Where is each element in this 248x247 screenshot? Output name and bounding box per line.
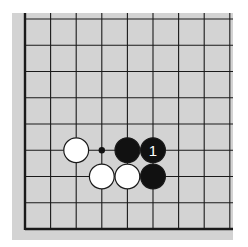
white-stone-icon [115,164,140,189]
point-marker-dot-icon [99,147,105,153]
black-stone [141,164,166,189]
white-stone [115,164,140,189]
white-stone [64,138,89,163]
move-number-label: 1 [149,142,157,159]
white-stone [89,164,114,189]
board-markers [99,147,105,153]
white-stone-icon [64,138,89,163]
black-stone: 1 [141,138,166,163]
black-stone-icon [141,164,166,189]
black-stone-icon [115,138,140,163]
go-board: 1 [0,0,248,247]
board-background [12,13,233,240]
white-stone-icon [89,164,114,189]
black-stone [115,138,140,163]
